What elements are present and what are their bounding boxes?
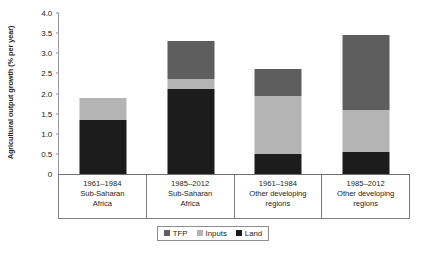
legend-item-tfp[interactable]: TFP xyxy=(164,229,188,238)
category-region-line1: Other developing xyxy=(249,189,306,199)
bar-segment-tfp xyxy=(167,41,214,79)
bar-segment-inputs xyxy=(255,96,302,154)
bar-segment-land xyxy=(343,152,390,174)
y-axis-tick-label: 2.0 xyxy=(26,89,52,98)
bar-segment-land xyxy=(167,89,214,174)
legend-label: Land xyxy=(245,229,262,238)
stacked-bar[interactable] xyxy=(79,98,126,174)
bar-segment-tfp xyxy=(343,35,390,109)
bar-segment-land xyxy=(255,154,302,174)
category-region-line2: regions xyxy=(353,199,378,209)
bar-segment-tfp xyxy=(255,69,302,95)
legend-swatch-icon xyxy=(236,230,242,236)
legend-label: TFP xyxy=(173,229,188,238)
category-label-band: 1961–1984Sub-SaharanAfrica1985–2012Sub-S… xyxy=(58,175,410,219)
legend-item-inputs[interactable]: Inputs xyxy=(197,229,227,238)
bar-segment-inputs xyxy=(167,79,214,89)
bar-segment-inputs xyxy=(343,110,390,152)
y-axis-tick-label: 3.0 xyxy=(26,49,52,58)
y-axis-tick-label: 0.5 xyxy=(26,149,52,158)
y-axis-tick-label: 0 xyxy=(26,170,52,179)
category-period: 1961–1984 xyxy=(83,179,121,189)
y-axis-title: Agricultural output growth (% per year) xyxy=(6,7,15,179)
category-label-cell: 1961–1984Sub-SaharanAfrica xyxy=(59,175,147,218)
plot-area xyxy=(59,13,410,174)
category-region-line2: Africa xyxy=(93,199,112,209)
category-label-cell: 1985–2012Other developingregions xyxy=(322,175,409,218)
bar-slot xyxy=(235,13,323,174)
y-axis-tick-label: 4.0 xyxy=(26,9,52,18)
bar-slot xyxy=(59,13,147,174)
y-axis-tick-label: 1.5 xyxy=(26,109,52,118)
category-label-cell: 1985–2012Sub-SaharanAfrica xyxy=(147,175,235,218)
category-period: 1985–2012 xyxy=(347,179,385,189)
legend-box: TFPInputsLand xyxy=(157,226,269,241)
y-axis-tick-label: 1.0 xyxy=(26,129,52,138)
category-period: 1985–2012 xyxy=(171,179,209,189)
chart-figure: Agricultural output growth (% per year) … xyxy=(0,0,426,253)
category-region-line1: Sub-Saharan xyxy=(80,189,124,199)
chart-legend: TFPInputsLand xyxy=(0,226,426,241)
stacked-bar[interactable] xyxy=(343,35,390,174)
stacked-bar[interactable] xyxy=(167,41,214,174)
legend-item-land[interactable]: Land xyxy=(236,229,262,238)
category-region-line2: regions xyxy=(266,199,291,209)
bar-segment-land xyxy=(79,120,126,174)
y-axis-tick-labels: 00.51.01.52.02.53.03.54.0 xyxy=(22,0,52,253)
y-axis-tick-label: 2.5 xyxy=(26,69,52,78)
category-label-cell: 1961–1984Other developingregions xyxy=(235,175,323,218)
bar-segment-inputs xyxy=(79,98,126,120)
bar-slot xyxy=(147,13,235,174)
legend-swatch-icon xyxy=(197,230,203,236)
category-period: 1961–1984 xyxy=(259,179,297,189)
y-axis-tick-label: 3.5 xyxy=(26,29,52,38)
category-region-line1: Sub-Saharan xyxy=(168,189,212,199)
category-region-line2: Africa xyxy=(181,199,200,209)
stacked-bar[interactable] xyxy=(255,69,302,174)
category-region-line1: Other developing xyxy=(337,189,394,199)
legend-swatch-icon xyxy=(164,230,170,236)
legend-label: Inputs xyxy=(206,229,227,238)
bar-slot xyxy=(322,13,410,174)
